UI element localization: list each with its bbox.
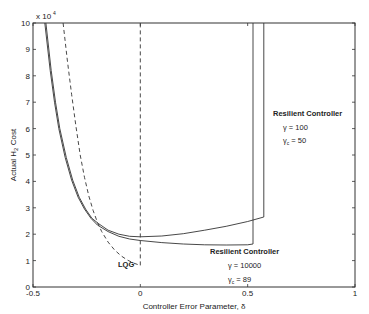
y-tick-label: 8 <box>26 72 31 81</box>
svg-text:γc = 50: γc = 50 <box>283 136 306 146</box>
y-tick-label: 7 <box>26 98 31 107</box>
y-tick-label: 0 <box>26 283 31 292</box>
svg-text:γ = 100: γ = 100 <box>283 123 308 132</box>
y-tick-label: 9 <box>26 45 31 54</box>
svg-text:Resilient Controller: Resilient Controller <box>210 247 279 256</box>
series-line-2 <box>46 23 264 237</box>
chart: -0.500.51012345678910 x 10 4 Controller … <box>0 0 369 314</box>
annotation-resilient-100: Resilient Controller γ = 100 γc = 50 <box>273 109 342 146</box>
x-tick-label: 1 <box>353 289 358 298</box>
y-scale-label: x 10 <box>36 12 52 21</box>
x-axis-label: Controller Error Parameter, δ <box>143 302 246 311</box>
svg-text:γc = 89: γc = 89 <box>228 275 251 285</box>
y-tick-label: 1 <box>26 257 31 266</box>
svg-text:γ = 10000: γ = 10000 <box>228 261 261 270</box>
y-tick-label: 2 <box>26 230 31 239</box>
x-tick-label: 0 <box>138 289 143 298</box>
y-tick-label: 3 <box>26 204 31 213</box>
y-axis-label: Actual H2 Cost <box>9 128 19 181</box>
y-scale-exponent: 4 <box>53 10 56 16</box>
plot-frame <box>33 23 355 287</box>
annotation-resilient-10000: Resilient Controller γ = 10000 γc = 89 <box>210 247 279 285</box>
series-line-0 <box>63 23 140 265</box>
series-line-1 <box>45 23 253 245</box>
y-tick-label: 5 <box>26 151 31 160</box>
annotation-lqg: LQG <box>118 260 134 269</box>
x-tick-label: 0.5 <box>242 289 254 298</box>
y-tick-label: 4 <box>26 177 31 186</box>
y-tick-label: 6 <box>26 125 31 134</box>
y-tick-label: 10 <box>21 19 30 28</box>
svg-text:Resilient Controller: Resilient Controller <box>273 109 342 118</box>
